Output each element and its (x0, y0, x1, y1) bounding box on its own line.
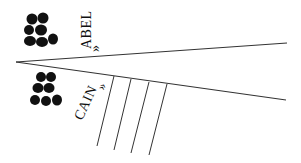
lower-ray (16, 62, 286, 100)
stone-pile-icon (30, 72, 62, 106)
marker-abel: » (88, 45, 104, 52)
label-abel: ABEL (79, 10, 95, 49)
stone-pile-icon (24, 13, 58, 48)
upper-ray (16, 43, 287, 62)
diagram-lines (0, 0, 301, 163)
diagram-canvas: ABEL » CAIN » (0, 0, 301, 163)
